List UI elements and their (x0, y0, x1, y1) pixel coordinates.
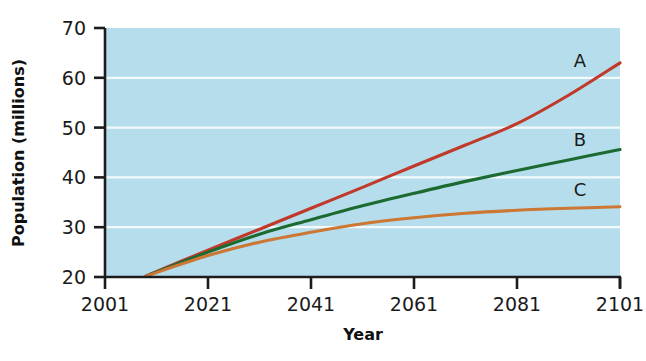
y-axis-title: Population (millions) (9, 59, 28, 247)
series-label-a: A (574, 50, 587, 71)
y-tick-label: 70 (62, 17, 86, 39)
population-projection-chart: 203040506070 200120212041206120812101 Po… (0, 0, 646, 361)
x-tick-label: 2081 (493, 293, 541, 315)
x-tick-label: 2021 (184, 293, 232, 315)
y-axis-ticks (94, 28, 105, 277)
x-tick-label: 2101 (596, 293, 644, 315)
x-axis-tick-labels: 200120212041206120812101 (81, 293, 644, 315)
x-tick-label: 2061 (390, 293, 438, 315)
chart-canvas: 203040506070 200120212041206120812101 Po… (0, 0, 646, 361)
y-axis-tick-labels: 203040506070 (62, 17, 86, 288)
y-tick-label: 20 (62, 266, 86, 288)
y-tick-label: 40 (62, 166, 86, 188)
y-tick-label: 60 (62, 67, 86, 89)
plot-background (105, 28, 620, 277)
y-tick-label: 50 (62, 117, 86, 139)
series-label-c: C (574, 179, 587, 200)
x-axis-title: Year (342, 325, 383, 344)
series-label-b: B (574, 129, 586, 150)
x-tick-label: 2001 (81, 293, 129, 315)
y-tick-label: 30 (62, 216, 86, 238)
x-axis-ticks (105, 277, 620, 289)
x-tick-label: 2041 (287, 293, 335, 315)
